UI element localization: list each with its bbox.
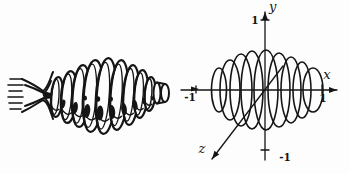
knob-back-ellipse [154,83,161,104]
x-axis-label: x [323,67,331,82]
textbook-figure: -111-1xyz [0,0,349,174]
y-axis-tick-label: -1 [279,151,291,163]
y-axis-tick-label: 1 [251,14,258,26]
y-axis-label: y [268,0,277,14]
knob-front-ellipse [161,84,169,102]
left-solid-sketch [8,57,169,134]
right-coordinate-plot: -111-1xyz [181,0,337,163]
y-axis-arrowhead [262,12,268,20]
crevice-shadow [96,96,100,102]
crevice-shadow [83,95,87,100]
x-axis-tick-label: -1 [184,91,196,103]
crevice-shadow [109,96,113,101]
z-axis-arrowhead [212,151,219,159]
x-axis-arrowhead [329,87,337,93]
figure-canvas: -111-1xyz [0,0,349,174]
z-axis-label: z [198,141,206,156]
